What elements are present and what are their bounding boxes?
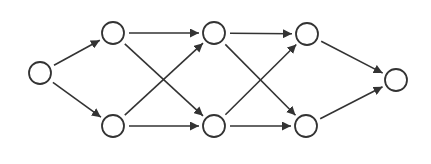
edge-arrow-s-to-a1 [54, 40, 100, 65]
edge-arrow-s-to-a2 [53, 82, 101, 117]
node-b2 [203, 115, 225, 137]
edge-arrow-c1-to-t [321, 41, 383, 73]
node-c2 [295, 115, 317, 137]
node-c1 [296, 23, 318, 45]
node-b1 [203, 22, 225, 44]
node-s [29, 62, 51, 84]
nodes-group [29, 22, 407, 137]
node-t [385, 69, 407, 91]
edge-arrow-b1-to-c1 [230, 33, 292, 34]
node-a1 [102, 22, 124, 44]
network-diagram [0, 0, 431, 164]
node-a2 [102, 115, 124, 137]
edge-arrow-c2-to-t [320, 87, 382, 119]
edges-group [53, 33, 383, 126]
